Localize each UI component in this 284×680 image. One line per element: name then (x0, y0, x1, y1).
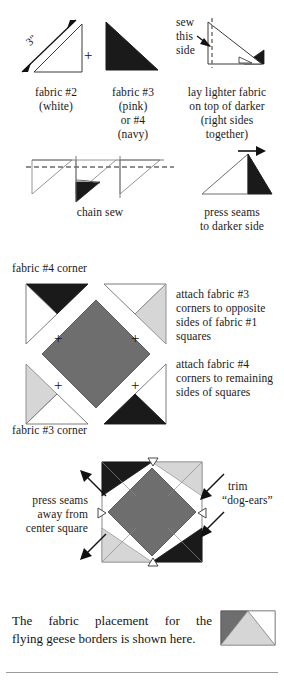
footer-line1: The fabric placement for the (12, 612, 212, 630)
instruction-sheet: 3" + sew this side fabric #2 (white) fab… (0, 0, 284, 680)
chain-unit-1-back (32, 160, 72, 194)
caption-press-line1: press seams (180, 206, 284, 220)
caption-lay-line3: (right sides (172, 114, 282, 128)
plus-symbol-tl: + (54, 331, 62, 346)
figure-corner-assembly (22, 280, 170, 428)
instruction-b-line1: attach fabric #4 (176, 358, 284, 372)
instruction-a-line4: squares (176, 330, 284, 344)
dark-triangle-shape (106, 22, 158, 70)
press-away-line3: center square (2, 522, 88, 536)
sew-label-line3: side (176, 44, 210, 58)
caption-fabric3-line2: (pink) (90, 100, 176, 114)
trim-arrow-lower-right (198, 508, 232, 544)
instruction-a-line3: sides of fabric #1 (176, 316, 284, 330)
caption-fabric3-line4: (navy) (90, 128, 176, 142)
caption-fabric2-line2: (white) (10, 100, 102, 114)
figure-press-seams (192, 148, 278, 202)
trim-line2: “dog-ears” (222, 494, 284, 508)
press-arrow-head (256, 146, 266, 156)
label-fabric3-corner: fabric #3 corner (12, 424, 172, 438)
caption-press-line2: to darker side (180, 220, 284, 234)
caption-chain-sew: chain sew (50, 206, 150, 220)
footer-line2: flying geese borders is shown here. (12, 631, 195, 646)
white-triangle-shape (34, 24, 82, 72)
caption-fabric2-line1: fabric #2 (10, 86, 102, 100)
instruction-a-line2: corners to opposite (176, 302, 284, 316)
chain-unit-2-dark (76, 182, 100, 202)
press-light-half (202, 154, 248, 194)
plus-symbol-tr: + (131, 331, 139, 346)
instruction-a-line1: attach fabric #3 (176, 288, 284, 302)
caption-fabric3-line1: fabric #3 (90, 86, 176, 100)
caption-lay-line2: on top of darker (172, 100, 282, 114)
footer-divider-rule (6, 672, 278, 673)
figure-flying-geese-swatch (220, 610, 276, 648)
instruction-b-line3: sides of squares (176, 386, 284, 400)
trim-arrow-ur-head (200, 488, 212, 500)
instruction-b-line2: corners to remaining (176, 372, 284, 386)
caption-lay-line4: together) (172, 128, 282, 142)
trim-arrow-lr-head (200, 525, 212, 538)
sew-label-line1: sew (176, 16, 210, 30)
press-away-line2: away from (2, 508, 88, 522)
figure-chain-sew (24, 150, 176, 202)
plus-symbol-bl: + (54, 378, 62, 393)
press-dark-half (248, 154, 272, 194)
press-away-line1: press seams (2, 494, 88, 508)
plus-symbol-step1: + (84, 48, 92, 63)
sew-label-line2: this (176, 30, 210, 44)
figure-finished-block (96, 456, 208, 568)
caption-fabric3-line3: or #4 (90, 114, 176, 128)
chain-unit-3-back (120, 160, 160, 194)
lighter-fabric-top (208, 22, 262, 64)
trim-line1: trim (228, 480, 284, 494)
plus-symbol-br: + (131, 378, 139, 393)
label-fabric4-corner: fabric #4 corner (12, 262, 172, 276)
caption-lay-line1: lay lighter fabric (172, 86, 282, 100)
figure-dark-triangle (102, 18, 164, 76)
footer-caption: The fabric placement for the flying gees… (12, 612, 212, 648)
